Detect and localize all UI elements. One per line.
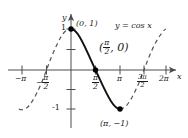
cosine-curve-dashed-left	[19, 29, 71, 110]
fraction-denominator: 2	[137, 81, 148, 89]
point-zero-marker	[93, 67, 98, 72]
point-label-max: (0, 1)	[76, 20, 98, 28]
point-max-marker	[68, 26, 73, 31]
fraction-numerator: 3π	[137, 74, 148, 81]
x-tick-half-pi-fraction: π2	[92, 74, 99, 90]
point-label-zero-close: , 0)	[110, 41, 128, 54]
x-tick-label-half-pi: π2	[92, 74, 99, 90]
point-label-zero: (π2, 0)	[99, 39, 129, 55]
fraction-numerator: π	[92, 74, 99, 82]
fraction-numerator: π	[42, 74, 49, 82]
x-tick-neg-half-pi-fraction: π2	[42, 74, 49, 90]
x-tick-label-neg-half-pi: −π2	[36, 74, 49, 90]
x-tick-label-pi: π	[117, 75, 122, 83]
x-axis-label: x	[177, 73, 182, 81]
fraction-denominator: 2	[42, 82, 49, 91]
point-label-min: (π, −1)	[100, 120, 128, 128]
point-min-marker	[117, 106, 122, 111]
y-tick-label-neg-one: -1	[52, 104, 60, 112]
curve-label: y = cos x	[115, 22, 152, 30]
y-tick-label-one: 1	[61, 24, 66, 32]
x-tick-three-half-pi-fraction: 3π2	[137, 74, 148, 89]
x-tick-label-two-pi: 2π	[159, 75, 169, 83]
x-tick-label-three-half-pi: 3π2	[137, 74, 148, 89]
cosine-graph-figure: x y 1 -1 −π −π2 π2 π 3π2 2π (0, 1) (π2, …	[0, 0, 188, 138]
fraction-denominator: 2	[92, 82, 99, 91]
y-axis-label: y	[62, 14, 67, 22]
x-tick-label-neg-pi: −π	[15, 75, 26, 83]
